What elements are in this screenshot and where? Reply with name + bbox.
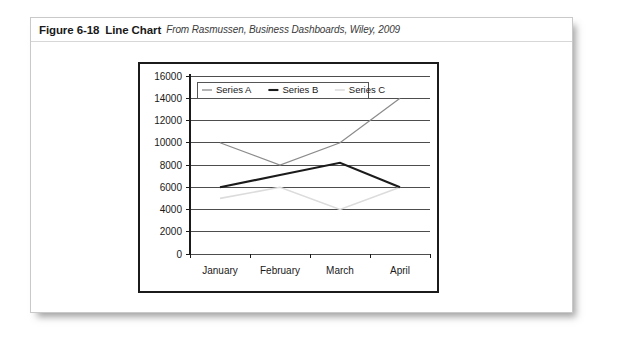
y-tick-label-12000: 12000 [154, 115, 182, 126]
figure-caption-bar: Figure 6-18 Line Chart From Rasmussen, B… [31, 18, 572, 42]
x-tick-label-march: March [326, 265, 354, 276]
y-tick-label-6000: 6000 [160, 182, 183, 193]
series-line-series-a [220, 98, 400, 165]
chart-legend: Series ASeries BSeries C [197, 82, 385, 98]
chart-x-axis-labels: JanuaryFebruaryMarchApril [202, 265, 410, 276]
y-tick-label-8000: 8000 [160, 160, 183, 171]
y-tick-label-0: 0 [176, 249, 182, 260]
chart-frame: 0200040006000800010000120001400016000 Ja… [138, 62, 439, 293]
x-tick-label-february: February [260, 265, 300, 276]
series-line-series-c [220, 187, 400, 209]
figure-title: Line Chart [105, 24, 161, 36]
series-line-series-b [220, 163, 400, 187]
x-tick-label-april: April [390, 265, 410, 276]
x-tick-label-january: January [202, 265, 238, 276]
figure-source-attribution: From Rasmussen, Business Dashboards, Wil… [166, 24, 400, 35]
legend-label-series-a: Series A [216, 84, 252, 95]
y-tick-label-16000: 16000 [154, 71, 182, 82]
figure-card: Figure 6-18 Line Chart From Rasmussen, B… [30, 17, 573, 313]
chart-series-lines [220, 98, 400, 209]
legend-label-series-b: Series B [282, 84, 318, 95]
y-tick-label-10000: 10000 [154, 137, 182, 148]
y-tick-label-2000: 2000 [160, 226, 183, 237]
y-tick-label-4000: 4000 [160, 204, 183, 215]
chart-y-axis-labels: 0200040006000800010000120001400016000 [154, 71, 182, 260]
y-tick-label-14000: 14000 [154, 93, 182, 104]
legend-label-series-c: Series C [349, 84, 386, 95]
line-chart: 0200040006000800010000120001400016000 Ja… [140, 64, 437, 291]
figure-number: Figure 6-18 [39, 24, 99, 36]
